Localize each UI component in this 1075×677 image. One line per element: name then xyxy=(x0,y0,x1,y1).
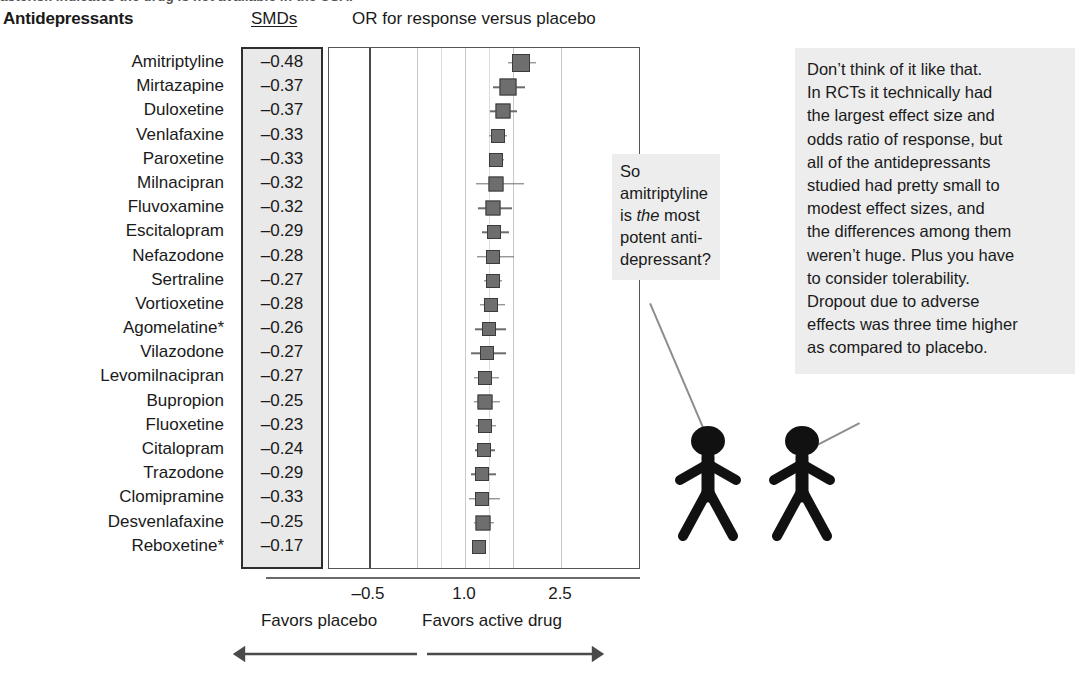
drug-name-label: Duloxetine xyxy=(0,98,232,122)
effect-estimate-marker xyxy=(486,201,501,216)
drug-name-label: Nefazodone xyxy=(0,244,232,268)
effect-estimate-marker xyxy=(478,371,492,385)
page-title: Antidepressants xyxy=(3,9,133,29)
axis-tick-label: 2.5 xyxy=(548,584,572,604)
bubble-answer-line: Don’t think of it like that. xyxy=(807,58,1065,81)
smd-value: –0.28 xyxy=(241,244,323,268)
figure-legs xyxy=(683,490,733,536)
stick-figure-answering xyxy=(766,424,838,544)
drug-name-label: Levomilnacipran xyxy=(0,364,232,388)
forest-plot-row xyxy=(329,487,639,511)
forest-plot-row xyxy=(329,535,639,559)
smd-value: –0.25 xyxy=(241,389,323,413)
drug-name-label: Reboxetine* xyxy=(0,534,232,558)
drug-name-label: Milnacipran xyxy=(0,171,232,195)
smd-value: –0.29 xyxy=(241,219,323,243)
effect-estimate-marker xyxy=(484,298,498,312)
forest-plot xyxy=(328,47,640,569)
bubble-answer-line: all of the antidepressants xyxy=(807,151,1065,174)
favors-active-drug-label: Favors active drug xyxy=(422,611,562,631)
bubble-answer-line: modest effect sizes, and xyxy=(807,197,1065,220)
bubble-question-line: potent anti- xyxy=(620,226,712,248)
speech-bubble-question: Soamitriptylineis the mostpotent anti-de… xyxy=(612,154,720,280)
bubble-answer-line: weren’t huge. Plus you have xyxy=(807,244,1065,267)
bubble-question-line: is the most xyxy=(620,204,712,226)
effect-estimate-marker xyxy=(489,177,504,192)
smd-value: –0.28 xyxy=(241,292,323,316)
forest-plot-row xyxy=(329,51,639,75)
effect-estimate-marker xyxy=(475,515,490,530)
effect-estimate-marker xyxy=(491,129,505,143)
smd-value: –0.27 xyxy=(241,340,323,364)
bubble-answer-line: Dropout due to adverse xyxy=(807,290,1065,313)
forest-plot-row xyxy=(329,438,639,462)
drug-name-label: Escitalopram xyxy=(0,219,232,243)
forest-plot-row xyxy=(329,317,639,341)
drug-name-label: Clomipramine xyxy=(0,485,232,509)
smd-value: –0.27 xyxy=(241,364,323,388)
favors-active-drug-label-arrow xyxy=(425,646,614,662)
forest-plot-row xyxy=(329,75,639,99)
smd-value: –0.17 xyxy=(241,534,323,558)
bubble-answer-line: the largest effect size and xyxy=(807,104,1065,127)
smd-value: –0.33 xyxy=(241,485,323,509)
bubble-answer-line: studied had pretty small to xyxy=(807,174,1065,197)
bubble-question-line: amitriptyline xyxy=(620,182,712,204)
cutoff-caption: asterisk indicates the drug is not avail… xyxy=(0,0,640,7)
forest-plot-row xyxy=(329,462,639,486)
forest-plot-row xyxy=(329,390,639,414)
bubble-answer-line: In RCTs it technically had xyxy=(807,81,1065,104)
drug-name-label: Fluoxetine xyxy=(0,413,232,437)
drug-name-label: Desvenlafaxine xyxy=(0,510,232,534)
bubble-answer-line: to consider tolerability. xyxy=(807,267,1065,290)
forest-plot-row xyxy=(329,293,639,317)
effect-estimate-marker xyxy=(512,54,530,72)
forest-plot-row xyxy=(329,196,639,220)
forest-plot-row xyxy=(329,148,639,172)
axis-tick-label: –0.5 xyxy=(351,584,384,604)
smd-value: –0.23 xyxy=(241,413,323,437)
smd-value: –0.32 xyxy=(241,195,323,219)
speech-bubble-answer: Don’t think of it like that.In RCTs it t… xyxy=(795,48,1075,374)
smd-value-column: –0.48–0.37–0.37–0.33–0.33–0.32–0.32–0.29… xyxy=(241,50,323,558)
forest-plot-row xyxy=(329,124,639,148)
drug-name-label: Sertraline xyxy=(0,268,232,292)
effect-estimate-marker xyxy=(486,250,500,264)
effect-estimate-marker xyxy=(482,322,496,336)
bubble-answer-line: as compared to placebo. xyxy=(807,336,1065,359)
drug-name-label: Fluvoxamine xyxy=(0,195,232,219)
favors-placebo-label-arrow xyxy=(225,646,419,662)
smd-value: –0.33 xyxy=(241,123,323,147)
favors-placebo-label: Favors placebo xyxy=(261,611,377,631)
axis-tick-label: 1.0 xyxy=(452,584,476,604)
drug-name-label: Trazodone xyxy=(0,461,232,485)
drug-name-label: Paroxetine xyxy=(0,147,232,171)
effect-estimate-marker xyxy=(478,419,492,433)
bubble-answer-line: the differences among them xyxy=(807,220,1065,243)
question-bubble-tail xyxy=(650,303,706,433)
bubble-question-line: So xyxy=(620,160,712,182)
forest-plot-row xyxy=(329,245,639,269)
stick-figure-asking xyxy=(672,424,744,544)
drug-name-label: Agomelatine* xyxy=(0,316,232,340)
effect-estimate-marker xyxy=(499,79,516,96)
bubble-question-line: depressant? xyxy=(620,248,712,270)
forest-plot-row xyxy=(329,269,639,293)
effect-estimate-marker xyxy=(475,492,489,506)
effect-estimate-marker xyxy=(489,153,503,167)
plot-title: OR for response versus placebo xyxy=(352,9,872,29)
forest-plot-row xyxy=(329,366,639,390)
smd-value: –0.25 xyxy=(241,510,323,534)
effect-estimate-marker xyxy=(487,225,501,239)
forest-plot-row xyxy=(329,414,639,438)
smd-value: –0.27 xyxy=(241,268,323,292)
forest-plot-row xyxy=(329,511,639,535)
bubble-answer-line: odds ratio of response, but xyxy=(807,128,1065,151)
drug-name-label: Venlafaxine xyxy=(0,123,232,147)
drug-name-label: Mirtazapine xyxy=(0,74,232,98)
x-axis-line xyxy=(266,577,640,579)
bubble-answer-line: effects was three time higher xyxy=(807,313,1065,336)
forest-plot-row xyxy=(329,99,639,123)
forest-plot-row xyxy=(329,172,639,196)
effect-estimate-marker xyxy=(472,540,486,554)
